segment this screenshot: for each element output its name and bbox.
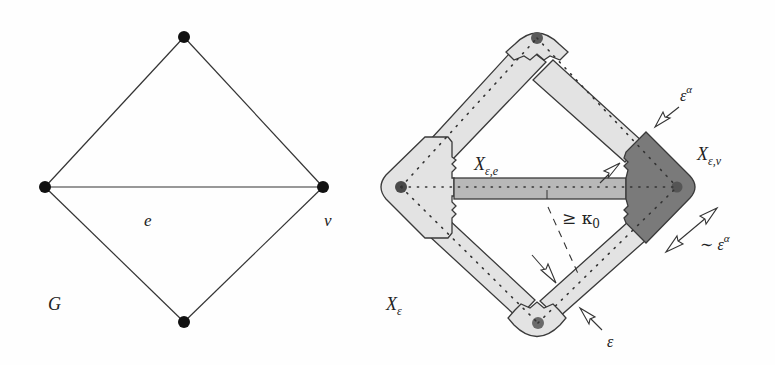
- edge-region-X-eps-e: [454, 178, 626, 199]
- label-angle-kappa: ≥ κ0: [562, 208, 600, 231]
- arrow-eps-icon: [580, 308, 602, 330]
- label-X-eps: Xε: [385, 294, 402, 318]
- tube-top-right: [533, 60, 643, 162]
- edge-left-bottom: [45, 187, 184, 322]
- tube-bottom-right: [540, 222, 646, 318]
- vertex-label-v: v: [324, 211, 332, 230]
- edge-label-e: e: [144, 211, 152, 230]
- graph-edges: [45, 37, 323, 322]
- edge-left-top: [45, 37, 184, 187]
- graph-g: e v G: [39, 31, 332, 328]
- label-sim-eps-alpha: ∼ εα: [700, 232, 730, 253]
- graph-label-G: G: [48, 294, 61, 314]
- arrow-eps-alpha-icon: [655, 107, 679, 127]
- graph-vertices: [39, 31, 329, 328]
- label-X-eps-e: Xε,e: [473, 154, 499, 178]
- arrow-inner-bottom-icon: [532, 255, 556, 283]
- label-eps-alpha: εα: [680, 83, 692, 104]
- edge-top-right: [184, 37, 323, 187]
- vertex-v: [317, 181, 329, 193]
- vertex-left: [39, 181, 51, 193]
- figure-canvas: e v G: [0, 0, 775, 365]
- label-X-eps-v: Xε,v: [696, 144, 722, 168]
- vertex-bottom: [178, 316, 190, 328]
- edge-bottom-right: [184, 187, 323, 322]
- vertex-region-X-eps-v: [624, 132, 695, 243]
- vertex-top: [178, 31, 190, 43]
- thickened-graph: Xε,e Xε,v ≥ κ0 εα ∼ εα ε Xε: [381, 32, 730, 350]
- label-eps: ε: [607, 333, 614, 350]
